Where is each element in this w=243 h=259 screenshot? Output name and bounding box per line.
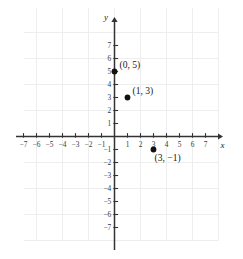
x-axis-tick-label: −5 (46, 140, 54, 149)
y-axis-tick-label: 3 (108, 93, 112, 102)
x-axis-tick-label: 4 (165, 140, 169, 149)
data-point (125, 95, 131, 101)
data-point-label: (1, 3) (133, 85, 154, 97)
x-axis-tick-label: −6 (33, 140, 41, 149)
grid-layer (24, 8, 219, 241)
y-axis-tick-label: 2 (108, 106, 112, 115)
data-point-label: (0, 5) (120, 59, 141, 71)
x-axis-tick-label: 7 (204, 140, 208, 149)
y-axis-tick-label: −6 (103, 210, 111, 219)
x-axis-tick-label: 1 (126, 140, 130, 149)
x-axis-label: x (220, 140, 225, 150)
x-axis-tick-label: −4 (59, 140, 67, 149)
y-axis-tick-label: −1 (103, 145, 111, 154)
y-axis-tick-label: −2 (103, 158, 111, 167)
x-axis-tick-label: −7 (20, 140, 28, 149)
y-axis-tick-label: 1 (108, 119, 112, 128)
y-axis-tick-label: −5 (103, 197, 111, 206)
x-axis-tick-label: 2 (139, 140, 143, 149)
y-axis-arrowhead (111, 17, 117, 22)
x-axis-tick-label: −2 (85, 140, 93, 149)
data-point (112, 69, 118, 75)
coordinate-plane-svg: −7−6−5−4−3−2−11234567−7−6−5−4−3−2−112345… (0, 0, 243, 259)
y-axis-tick-label: 5 (108, 67, 112, 76)
coordinate-plane-figure: −7−6−5−4−3−2−11234567−7−6−5−4−3−2−112345… (0, 0, 243, 259)
y-axis-tick-label: 4 (108, 80, 112, 89)
data-point-label: (3, −1) (155, 152, 181, 164)
y-axis-tick-label: −3 (103, 171, 111, 180)
y-axis-tick-label: 6 (108, 54, 112, 63)
y-axis-tick-label: 7 (108, 41, 112, 50)
x-axis-tick-label: 6 (191, 140, 195, 149)
y-axis-tick-label: −7 (103, 223, 111, 232)
x-axis-arrowhead (218, 133, 223, 139)
x-axis-tick-label: 5 (178, 140, 182, 149)
x-axis-tick-label: −3 (72, 140, 80, 149)
y-axis-tick-label: −4 (103, 184, 111, 193)
y-axis-label: y (103, 12, 108, 22)
